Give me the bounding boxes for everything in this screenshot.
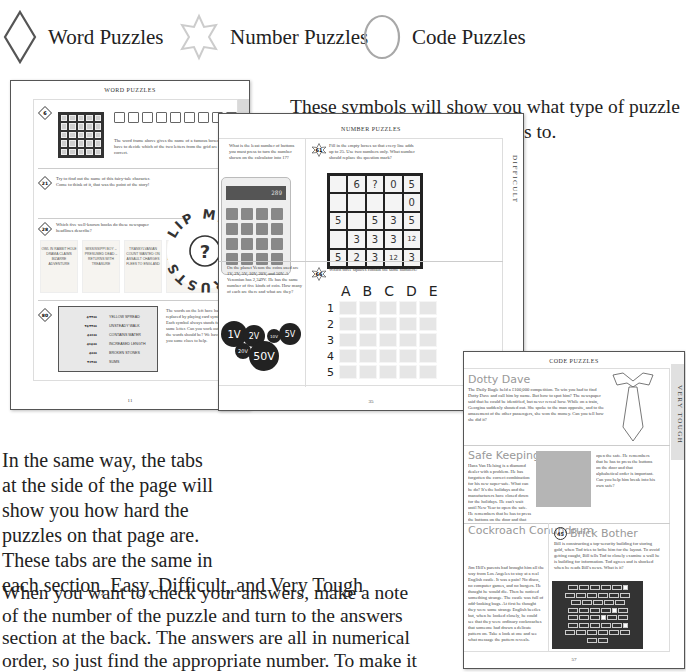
page-title: CODE PUZZLES [464, 358, 684, 364]
circle-icon [362, 12, 402, 62]
number-grid: 6?05 0 5535 33312 523123 [327, 173, 423, 269]
diamond-icon: 21 [38, 176, 52, 190]
coin: 5V [279, 323, 301, 345]
puzzle-text: The Daily Bugle held a £100,000 competit… [468, 387, 608, 423]
page-number: 11 [11, 398, 249, 403]
legend-label: Word Puzzles [48, 25, 164, 50]
star-icon: 61 [311, 143, 327, 157]
headline-card: MISSISSIPPI BOY – PRESUMED DEAD – RETURN… [82, 240, 120, 293]
headline-card: OWL IN RABBIT HOLE DRAMA CLAIMS BIZARRE … [40, 240, 78, 293]
legend-item-code-puzzles: Code Puzzles [362, 8, 526, 66]
text-line: of the number of the puzzle and turn to … [2, 605, 472, 628]
code-puzzles-page-sample: CODE PUZZLES VERY TOUGH Dotty Dave The D… [463, 351, 685, 669]
divider [219, 261, 503, 262]
legend-item-number-puzzles: Number Puzzles [178, 8, 368, 66]
text-line: section at the back. The answers are all… [2, 627, 472, 650]
text-line: When you want to check your answers, mak… [2, 582, 472, 605]
diamond-icon [2, 9, 38, 65]
legend-label: Code Puzzles [412, 25, 526, 50]
page-title: WORD PUZZLES [11, 87, 249, 93]
clue: UNSTEADY WALK [109, 322, 140, 331]
text-line: order, so just find the appropriate numb… [2, 650, 472, 672]
difficulty-tab-very-tough: VERY TOUGH [671, 364, 684, 460]
svg-text:66: 66 [316, 271, 323, 277]
svg-text:21: 21 [42, 181, 48, 186]
clue: SUMS [109, 358, 119, 367]
diamond-icon: 28 [38, 222, 52, 236]
page-title: NUMBER PUZZLES [219, 126, 523, 132]
letter-grid [58, 112, 104, 158]
puzzle-text: Try to find out the name of this fairy-t… [56, 176, 156, 188]
text-line: show you how hard the [2, 498, 472, 523]
star-icon [178, 13, 220, 61]
puzzle-text: Which three squares contain the same num… [329, 267, 419, 273]
legend-item-word-puzzles: Word Puzzles [2, 8, 164, 66]
clue: YELLOW SPREAD [109, 313, 140, 322]
diamond-icon: 80 [38, 308, 52, 322]
text-line: at the side of the page will [2, 473, 472, 498]
clue: BROKEN STONES [109, 349, 140, 358]
svg-text:80: 80 [42, 313, 48, 318]
number-squares-grid: ABCDE 1 2 3 4 5 [327, 283, 438, 379]
puzzle-text: Jim Hill's parents had brought him all t… [468, 565, 544, 645]
text-line: puzzles on that page are. [2, 523, 472, 548]
calculator-display: 289 [226, 186, 286, 200]
page-content: What is the least number of buttons you … [219, 138, 503, 386]
text-line: These tabs are the same in [2, 548, 472, 573]
clue: CONTAINS WATER [109, 331, 141, 340]
brick-wall-illustration [552, 581, 643, 649]
puzzle-heading: Dotty Dave [468, 373, 530, 386]
puzzle-text: Which five well-known books do these new… [56, 222, 156, 234]
word-puzzles-page-sample: WORD PUZZLES EASY 6 The word frame above… [10, 80, 250, 410]
puzzle-text: Fill in the empty boxes so that every li… [329, 143, 419, 161]
coins-illustration: 1V 2V 10V 5V 20V 50V [221, 321, 311, 381]
puzzle-type-legend: Word Puzzles Number Puzzles Code Puzzles [0, 0, 686, 72]
puzzle-number-badge: 45 [554, 527, 567, 540]
puzzle-text: Hans Van Helsing is a diamond dealer wit… [468, 463, 532, 521]
column-divider [548, 523, 549, 651]
headline-card: TRANSYLVANIAN COUNT WANTED ON ASSAULT CH… [124, 240, 162, 293]
card-symbol-clues: ♣♥♥♠♠YELLOW SPREAD ♥♣♥♥♠♠UNSTEADY WALK ♣… [58, 306, 158, 372]
safe-keypad-illustration [536, 451, 591, 507]
page-number: 57 [464, 657, 684, 662]
puzzle-text: The word frame above gives the name of a… [114, 138, 232, 156]
puzzle-text: On the planet Venon the coins used are 1… [227, 265, 303, 295]
text-line: In the same way, the tabs [2, 448, 472, 473]
svg-text:61: 61 [316, 147, 323, 153]
diamond-icon: 6 [38, 106, 52, 120]
difficulty-tabs-explanation: In the same way, the tabs at the side of… [2, 448, 472, 598]
clue: INCREASED LENGTH [109, 340, 146, 349]
answers-explanation: When you want to check your answers, mak… [2, 582, 472, 672]
coin: 50V [249, 341, 279, 371]
puzzle-text: open the safe. He remembers that he has … [596, 453, 656, 513]
puzzle-text: Bill is constructing a top-security buil… [554, 541, 662, 571]
tie-illustration [611, 371, 655, 443]
puzzle-heading: Brick Bother [570, 527, 638, 540]
star-icon: 66 [311, 267, 327, 281]
puzzle-heading: Safe Keeping [468, 449, 540, 462]
divider [464, 445, 670, 446]
svg-text:?: ? [200, 241, 210, 262]
divider [38, 300, 234, 301]
divider [38, 168, 234, 169]
difficulty-tab-difficult: DIFFICULT [506, 136, 519, 216]
page-content: Dotty Dave The Daily Bugle held a £100,0… [464, 368, 670, 652]
svg-text:28: 28 [42, 227, 48, 232]
legend-label: Number Puzzles [230, 25, 368, 50]
svg-text:6: 6 [43, 110, 47, 116]
puzzle-text: What is the least number of buttons you … [229, 143, 299, 161]
